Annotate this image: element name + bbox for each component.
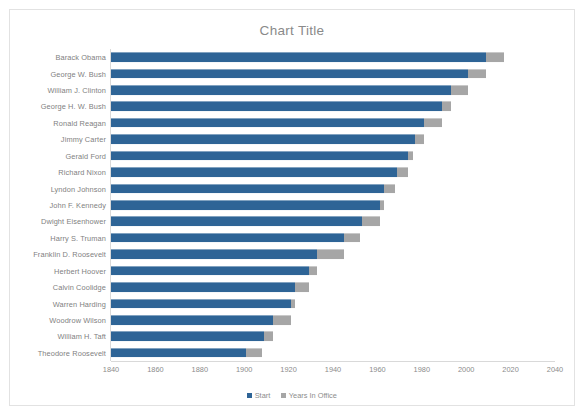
bar-row: Richard Nixon [111,164,555,180]
bar-segment-years-in-office[interactable] [291,299,295,309]
bar-segment-years-in-office[interactable] [380,200,384,210]
stacked-bar[interactable] [111,315,291,325]
bar-row: George W. Bush [111,65,555,81]
bar-segment-start[interactable] [111,102,442,112]
legend-item[interactable]: Start [247,391,270,400]
bar-segment-start[interactable] [111,85,451,95]
bar-segment-years-in-office[interactable] [295,282,308,292]
bar-row: Woodrow Wilson [111,312,555,328]
stacked-bar[interactable] [111,118,442,128]
bar-segment-years-in-office[interactable] [317,249,344,259]
x-axis-ticks: 1840186018801900192019401960198020002020… [111,361,555,377]
bar-row: Herbert Hoover [111,262,555,278]
category-label: Herbert Hoover [54,266,106,275]
stacked-bar[interactable] [111,135,424,145]
plot-area: Barack ObamaGeorge W. BushWilliam J. Cli… [111,49,555,361]
bar-row: Jimmy Carter [111,131,555,147]
bar-row: Harry S. Truman [111,230,555,246]
stacked-bar[interactable] [111,266,317,276]
category-label: Lyndon Johnson [51,184,106,193]
bar-row: George H. W. Bush [111,98,555,114]
x-axis-tick-label: 1960 [369,365,385,374]
x-axis-tick-label: 1940 [325,365,341,374]
stacked-bar[interactable] [111,249,344,259]
category-label: William J. Clinton [48,86,106,95]
bar-segment-years-in-office[interactable] [415,135,424,145]
stacked-bar[interactable] [111,233,360,243]
bar-row: William H. Taft [111,328,555,344]
stacked-bar[interactable] [111,299,295,309]
bar-segment-start[interactable] [111,315,273,325]
bar-segment-start[interactable] [111,249,317,259]
bar-segment-start[interactable] [111,282,295,292]
stacked-bar[interactable] [111,151,413,161]
category-label: John F. Kennedy [49,200,106,209]
bar-segment-start[interactable] [111,52,486,62]
bar-segment-years-in-office[interactable] [424,118,442,128]
x-axis-tick-label: 1860 [147,365,163,374]
bar-segment-start[interactable] [111,217,362,227]
bar-segment-start[interactable] [111,184,384,194]
bar-segment-years-in-office[interactable] [344,233,360,243]
bar-segment-years-in-office[interactable] [442,102,451,112]
stacked-bar[interactable] [111,200,384,210]
x-axis-tick-label: 2040 [547,365,563,374]
bar-segment-start[interactable] [111,332,264,342]
bar-segment-start[interactable] [111,200,380,210]
bar-segment-start[interactable] [111,299,291,309]
bar-row: John F. Kennedy [111,197,555,213]
category-label: Ronald Reagan [53,118,106,127]
bar-row: Gerald Ford [111,148,555,164]
bar-segment-years-in-office[interactable] [397,167,408,177]
bar-segment-years-in-office[interactable] [264,332,273,342]
bar-segment-start[interactable] [111,151,408,161]
category-label: Dwight Eisenhower [41,217,106,226]
stacked-bar[interactable] [111,52,504,62]
bar-row: Dwight Eisenhower [111,213,555,229]
chart-title: Chart Title [10,23,574,38]
stacked-bar[interactable] [111,332,273,342]
legend-swatch-icon [281,393,286,398]
stacked-bar[interactable] [111,85,468,95]
bar-segment-start[interactable] [111,233,344,243]
bar-segment-start[interactable] [111,266,309,276]
stacked-bar[interactable] [111,348,262,358]
bar-segment-start[interactable] [111,348,246,358]
legend-label: Years In Office [289,391,337,400]
bar-segment-years-in-office[interactable] [273,315,291,325]
bar-segment-years-in-office[interactable] [362,217,380,227]
bar-segment-years-in-office[interactable] [468,69,486,79]
bar-segment-start[interactable] [111,118,424,128]
stacked-bar[interactable] [111,102,451,112]
bar-segment-years-in-office[interactable] [486,52,504,62]
category-label: Calvin Coolidge [53,283,106,292]
bar-segment-years-in-office[interactable] [246,348,262,358]
bar-segment-start[interactable] [111,167,397,177]
stacked-bar[interactable] [111,282,309,292]
category-label: Woodrow Wilson [49,315,106,324]
x-axis-tick-label: 2000 [458,365,474,374]
bar-row: Barack Obama [111,49,555,65]
bar-segment-years-in-office[interactable] [408,151,412,161]
category-label: Gerald Ford [65,151,106,160]
stacked-bar[interactable] [111,217,380,227]
bar-row: Lyndon Johnson [111,180,555,196]
stacked-bar[interactable] [111,184,395,194]
chart-legend: StartYears In Office [10,391,574,400]
x-axis-tick-label: 1920 [280,365,296,374]
category-label: George W. Bush [50,69,106,78]
stacked-bar[interactable] [111,69,486,79]
legend-item[interactable]: Years In Office [281,391,337,400]
bar-row: Theodore Roosevelt [111,345,555,361]
category-label: Jimmy Carter [61,135,106,144]
bar-segment-start[interactable] [111,69,468,79]
category-label: Warren Harding [53,299,106,308]
bar-segment-years-in-office[interactable] [451,85,469,95]
bar-segment-start[interactable] [111,135,415,145]
legend-swatch-icon [247,393,252,398]
bar-segment-years-in-office[interactable] [384,184,395,194]
bar-segment-years-in-office[interactable] [309,266,318,276]
bar-row: Calvin Coolidge [111,279,555,295]
stacked-bar[interactable] [111,167,408,177]
bar-row: Warren Harding [111,295,555,311]
